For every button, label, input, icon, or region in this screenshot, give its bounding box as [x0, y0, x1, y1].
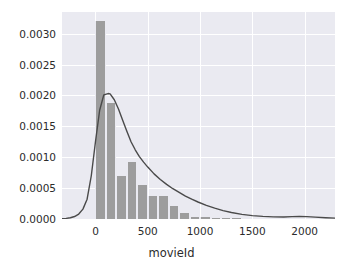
- plot-area: [62, 12, 335, 219]
- x-tick-label: 0: [65, 226, 125, 237]
- y-tick-label: 0.0010: [4, 152, 56, 163]
- kde-polyline: [62, 94, 335, 219]
- y-tick-label: 0.0030: [4, 29, 56, 40]
- y-tick-label: 0.0005: [4, 183, 56, 194]
- x-axis-ticklabels: 0500100015002000: [0, 226, 343, 242]
- x-tick-label: 500: [118, 226, 178, 237]
- x-axis-label: movieId: [0, 246, 343, 260]
- kde-curve: [62, 12, 335, 219]
- y-tick-label: 0.0025: [4, 60, 56, 71]
- x-tick-label: 2000: [275, 226, 335, 237]
- x-tick-label: 1500: [222, 226, 282, 237]
- y-tick-label: 0.0020: [4, 90, 56, 101]
- y-tick-label: 0.0000: [4, 214, 56, 225]
- y-tick-label: 0.0015: [4, 121, 56, 132]
- histogram-figure: 0.00000.00050.00100.00150.00200.00250.00…: [0, 0, 343, 268]
- x-tick-label: 1000: [170, 226, 230, 237]
